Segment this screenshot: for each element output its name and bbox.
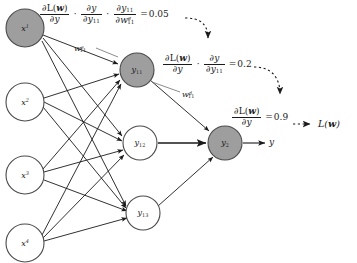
edge-x3-y11 <box>43 80 120 169</box>
frac-dL-dy-3: ∂L(w) ∂y <box>232 107 261 127</box>
loss-label: L(w) <box>318 118 340 129</box>
edge-x1-y13 <box>42 41 126 206</box>
output-arrow-label: y <box>269 137 274 147</box>
gradient-value-hidden: 0.2 <box>236 59 251 69</box>
frac-dy-dy11-2: ∂y ∂y11 <box>204 54 225 74</box>
gradient-expression-output: ∂L(w) ∂y =0.9 <box>232 107 288 127</box>
edge-x3-y13 <box>44 180 127 211</box>
backprop-arrow-to-hidden-gradient <box>254 67 280 94</box>
equals-sign-2: = <box>228 59 237 69</box>
weight-label-y11-y2: wd11 <box>182 90 194 99</box>
dot-operator-3: · <box>195 59 201 69</box>
input-layer-nodes <box>6 9 44 262</box>
node-y12 <box>123 126 157 160</box>
edge-y13-y2 <box>158 157 213 206</box>
backprop-arrow-to-weight-gradient <box>185 18 208 38</box>
dot-operator-1: · <box>72 9 78 19</box>
gradient-expression-weight: ∂L(w) ∂y · ∂y ∂y11 · ∂y11 ∂we11 =0.05 <box>40 4 169 25</box>
equals-sign-3: = <box>264 112 273 122</box>
node-x1 <box>6 9 44 47</box>
network-diagram-canvas <box>0 0 357 263</box>
frac-dy-dy11-1: ∂y ∂y11 <box>81 4 102 24</box>
node-y11 <box>120 53 154 87</box>
gradient-value-output: 0.9 <box>273 112 288 122</box>
gradient-expression-hidden: ∂L(w) ∂y · ∂y ∂y11 =0.2 <box>163 54 252 74</box>
weight-label-x1-y11: we11 <box>74 44 86 53</box>
node-y2 <box>208 126 242 160</box>
leader-w-y11-y2 <box>152 82 180 92</box>
frac-dL-dy-2: ∂L(w) ∂y <box>163 54 192 74</box>
node-x4 <box>6 224 44 262</box>
node-x2 <box>6 83 44 121</box>
edge-y11-y2 <box>150 80 209 131</box>
hidden-layer-nodes <box>120 53 160 230</box>
frac-dy11-dw-1: ∂y11 ∂we11 <box>114 4 137 25</box>
frac-dL-dy-1: ∂L(w) ∂y <box>40 4 69 24</box>
node-y13 <box>126 196 160 230</box>
equals-sign-1: = <box>139 9 148 19</box>
node-x3 <box>6 156 44 194</box>
edge-x4-y12 <box>43 155 124 238</box>
edge-x4-y13 <box>44 218 127 241</box>
leader-w-x1-y11 <box>96 48 118 57</box>
dot-operator-2: · <box>105 9 111 19</box>
gradient-value-weight: 0.05 <box>148 9 169 19</box>
edges-input-to-hidden <box>42 35 127 241</box>
